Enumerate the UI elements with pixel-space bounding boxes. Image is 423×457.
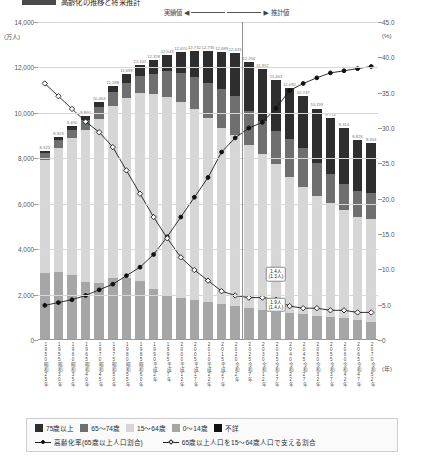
y-axis-tick — [34, 249, 38, 250]
line-marker — [288, 89, 292, 93]
gridline — [38, 22, 378, 23]
y2-axis-tick — [378, 57, 382, 58]
x-axis-label: 2000平成12年 — [178, 342, 183, 387]
x-axis-label: 2060令和42年 — [342, 342, 347, 387]
legend-item[interactable]: 65〜74歳 — [80, 423, 120, 433]
legend-box-row: 75歳以上65〜74歳15〜64歳0〜14歳不詳 — [35, 423, 389, 433]
line-path — [45, 67, 371, 306]
gridline — [38, 204, 378, 205]
y2-axis-unit: (%) — [382, 32, 392, 39]
legend-label: 75歳以上 — [46, 423, 74, 433]
hollow-diamond-icon — [163, 438, 179, 446]
line-marker — [315, 76, 319, 80]
title-tag-icon — [22, 0, 56, 5]
legend-label: 15〜64歳 — [137, 423, 166, 433]
y2-axis-tick-label: 0 — [382, 337, 386, 344]
line-marker — [57, 301, 61, 305]
line-marker — [193, 195, 197, 199]
callout-box: 1.4人(1.3人) — [266, 267, 286, 282]
y2-axis-tick-label: 25.0 — [382, 160, 394, 167]
legend-item[interactable]: 15〜64歳 — [126, 423, 166, 433]
line-marker — [301, 306, 306, 311]
line-marker — [125, 274, 129, 278]
y-axis-tick-label: 10,000 — [14, 109, 34, 116]
y2-axis-tick-label: 5.0 — [382, 301, 391, 308]
chart-page: 高齢化の推移と将来推計 8,3258,9239,4309,86010,46411… — [0, 0, 423, 457]
x-axis-label: 2045令和27年 — [301, 342, 306, 387]
gridline — [38, 295, 378, 296]
x-axis-label: 1990平成2年 — [151, 342, 156, 382]
x-axis-label: 2070令和52年 — [369, 342, 374, 387]
y2-axis-tick-label: 40.0 — [382, 54, 394, 61]
y-axis-tick-label: 2,000 — [18, 291, 34, 298]
legend-item[interactable]: 不詳 — [214, 423, 239, 433]
y-axis-tick — [34, 113, 38, 114]
chart-legend: 75歳以上65〜74歳15〜64歳0〜14歳不詳 高齢化率(65歳以上人口割合)… — [26, 418, 398, 452]
x-axis-label: 2005平成17年 — [192, 342, 197, 387]
legend-item[interactable]: 75歳以上 — [35, 423, 74, 433]
legend-line-label: 高齢化率(65歳以上人口割合) — [54, 437, 143, 447]
line-marker — [274, 106, 278, 110]
y-axis-tick — [34, 22, 38, 23]
x-axis-label: 1995平成7年 — [165, 342, 170, 382]
x-axis-line — [38, 339, 378, 340]
x-axis-labels: 1950昭和25年1955昭和30年1960昭和35年1965昭和40年1970… — [38, 342, 378, 404]
forecast-divider — [242, 22, 243, 340]
y2-axis-tick — [378, 269, 382, 270]
x-axis-label: 2015平成27年 — [219, 342, 224, 387]
line-marker — [152, 253, 156, 257]
page-title: 高齢化の推移と将来推計 — [22, 0, 140, 6]
legend-label: 不詳 — [225, 423, 239, 433]
x-axis-label: 2040令和22年 — [287, 342, 292, 387]
line-marker — [260, 295, 265, 300]
line-marker — [138, 265, 142, 269]
forecast-annotation: 実績値◀▶推計値 — [164, 8, 289, 17]
gridline — [38, 67, 378, 68]
line-marker — [261, 120, 265, 124]
x-axis-label: 2055令和37年 — [328, 342, 333, 387]
legend-line-label: 65歳以上人口を15〜64歳人口で支える割合 — [182, 437, 316, 447]
line-marker — [206, 176, 210, 180]
y2-axis-tick-label: 20.0 — [382, 195, 394, 202]
line-marker — [341, 308, 346, 313]
gridline — [38, 249, 378, 250]
y-axis-tick-label: 4,000 — [18, 246, 34, 253]
line-marker — [124, 168, 129, 173]
line-marker — [355, 310, 360, 315]
y-axis-tick-label: 6,000 — [18, 200, 34, 207]
line-marker — [329, 71, 333, 75]
y2-axis-tick — [378, 305, 382, 306]
y2-axis-tick — [378, 199, 382, 200]
y-axis-tick — [34, 340, 38, 341]
page-title-text: 高齢化の推移と将来推計 — [61, 0, 140, 7]
y-axis-tick — [34, 67, 38, 68]
y2-axis-tick — [378, 93, 382, 94]
legend-line-item[interactable]: 65歳以上人口を15〜64歳人口で支える割合 — [163, 437, 316, 447]
legend-label: 0〜14歳 — [183, 423, 208, 433]
y2-axis-tick-label: 10.0 — [382, 266, 394, 273]
y2-axis-tick — [378, 340, 382, 341]
legend-swatch — [80, 424, 88, 432]
y-axis-tick — [34, 204, 38, 205]
legend-item[interactable]: 0〜14歳 — [172, 423, 208, 433]
line-marker — [328, 308, 333, 313]
x-axis-label: 2030令和12年 — [260, 342, 265, 387]
estimate-label: 推計値 — [271, 8, 289, 17]
line-marker — [97, 288, 101, 292]
x-axis-label: 1975昭和50年 — [110, 342, 115, 387]
line-marker — [179, 215, 183, 219]
line-marker — [151, 214, 156, 219]
y2-axis-tick-label: 30.0 — [382, 125, 394, 132]
x-axis-label: 2010平成22年 — [206, 342, 211, 387]
line-marker — [342, 69, 346, 73]
x-axis-label: 2025令和7年 — [246, 342, 251, 382]
x-axis-label: 1980昭和55年 — [124, 342, 129, 387]
legend-line-item[interactable]: 高齢化率(65歳以上人口割合) — [35, 437, 143, 447]
callout-box: 1.9人(1.4人) — [266, 298, 286, 313]
callout-line2: (1.4人) — [269, 305, 283, 310]
y-axis-tick — [34, 295, 38, 296]
y2-axis-tick — [378, 163, 382, 164]
line-series-group — [38, 22, 378, 340]
line-marker — [247, 126, 251, 130]
x-axis-label: 2035令和17年 — [274, 342, 279, 387]
